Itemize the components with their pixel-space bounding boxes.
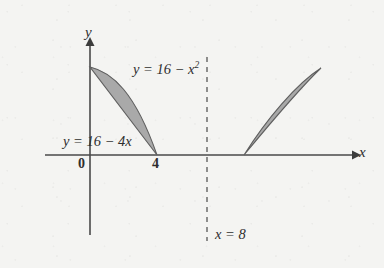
x-tick-label-4: 4 [152,157,159,171]
line-equation-text: y = 16 − 4x [63,133,132,149]
line-equation-label: y = 16 − 4x [63,134,132,149]
y-axis-label: y [85,25,92,40]
vertical-line-text: x = 8 [215,226,246,242]
x-axis-label: x [359,145,366,160]
parabola-exponent: 2 [194,60,199,70]
origin-tick-label: 0 [78,157,85,171]
shaded-region-right [244,68,321,155]
parabola-equation-text: y = 16 − x [133,61,194,77]
plot-canvas [0,0,384,268]
vertical-line-label: x = 8 [215,227,246,242]
parabola-equation-label: y = 16 − x2 [133,62,199,77]
figure-root: y x 0 4 y = 16 − x2 y = 16 − 4x x = 8 [0,0,384,268]
